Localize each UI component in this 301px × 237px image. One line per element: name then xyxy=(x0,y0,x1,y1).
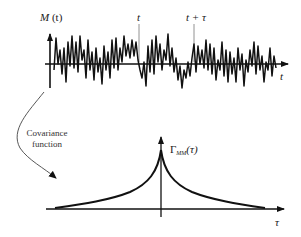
diagram-canvas xyxy=(0,0,301,237)
marker-t-label: t xyxy=(137,12,140,23)
covariance-y-label-arg: (τ) xyxy=(186,143,197,155)
covariance-x-axis-label: τ xyxy=(275,217,279,228)
covariance-function-caption: Covariance function xyxy=(22,128,72,150)
covariance-curve-right xyxy=(161,150,265,208)
signal-y-label-arg: (t) xyxy=(52,11,62,23)
covariance-y-label-sub: MM xyxy=(176,150,186,156)
signal-y-label-main: M xyxy=(40,11,49,23)
marker-t-tau-label: t + τ xyxy=(186,12,206,23)
signal-trace xyxy=(54,34,276,88)
covariance-plot xyxy=(46,137,284,217)
signal-y-axis-label: M (t) xyxy=(40,12,62,23)
covariance-curve-left xyxy=(55,150,161,208)
covariance-y-axis-label: ΓMM(τ) xyxy=(170,144,198,156)
signal-plot xyxy=(45,24,288,88)
signal-x-axis-label: t xyxy=(280,71,283,82)
caption-line-2: function xyxy=(22,139,72,150)
caption-line-1: Covariance xyxy=(22,128,72,139)
random-signal-covariance-diagram: M (t) t t + τ t Covariance function ΓMM(… xyxy=(0,0,301,237)
